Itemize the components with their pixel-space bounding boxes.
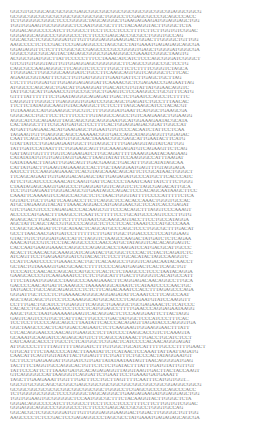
dna-sequence-text: GGCGTGCGGCAGCGCGGCGAGCGGCGGCGGCGGCGGCGGC… — [10, 10, 248, 421]
sequence-line: AAGCCCCTCTCCGACTCCGAGAGGCCCTAGCGCCTATGAA… — [10, 416, 248, 421]
